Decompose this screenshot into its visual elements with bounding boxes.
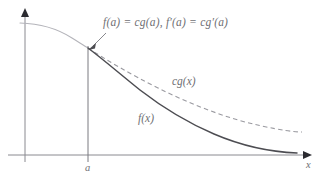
x-axis-label: x (306, 160, 311, 171)
x-tick-label-a: a (85, 163, 90, 174)
curve-cg (88, 48, 302, 132)
curve-f-label: f(x) (138, 113, 154, 125)
curve-cg-label: cg(x) (172, 76, 196, 88)
tangency-diagram: f(a) = cg(a), f′(a) = cg′(a) cg(x) f(x) … (0, 0, 320, 187)
arrow-right-icon (303, 151, 312, 159)
arrow-up-icon (21, 8, 29, 17)
tangency-condition-label: f(a) = cg(a), f′(a) = cg′(a) (103, 17, 228, 29)
curve-f (88, 48, 297, 153)
curve-f-left-branch (20, 23, 88, 48)
